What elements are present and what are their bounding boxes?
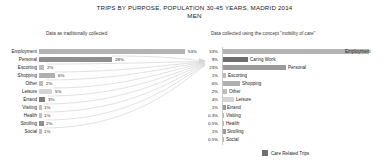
left-category-label: Visiting bbox=[0, 104, 37, 111]
left-value-label: 2% bbox=[47, 64, 53, 71]
left-category-label: Shopping bbox=[0, 72, 37, 79]
table-row: Other 2% bbox=[0, 80, 196, 87]
right-category-label: Health bbox=[226, 120, 239, 127]
legend-swatch-care-related-trips bbox=[262, 150, 268, 156]
left-bar-employment bbox=[39, 49, 185, 55]
right-value-label: 0.3% bbox=[196, 112, 218, 119]
right-bar-social bbox=[223, 137, 224, 143]
left-category-label: Other bbox=[0, 80, 37, 87]
left-bar-social bbox=[39, 129, 42, 135]
right-value-label: 53% bbox=[196, 48, 218, 55]
right-bar-other bbox=[223, 89, 227, 95]
table-row: Shopping 6% bbox=[0, 72, 196, 79]
right-category-label: Strolling bbox=[227, 128, 244, 135]
table-row: Social 1% bbox=[0, 128, 196, 135]
left-bar-personal bbox=[39, 57, 112, 63]
left-category-label: Social bbox=[0, 128, 37, 135]
left-bar-leisure bbox=[39, 89, 52, 95]
table-row: 0.5% Social bbox=[196, 136, 389, 143]
table-row: Visiting 1% bbox=[0, 104, 196, 111]
left-panel-heading: Data as traditionally collected bbox=[46, 31, 107, 36]
table-row: 2% Other bbox=[196, 88, 389, 95]
left-bar-visiting bbox=[39, 105, 42, 111]
table-row: 4% Leisure bbox=[196, 96, 389, 103]
table-row: 6% Shopping bbox=[196, 80, 389, 87]
right-value-label: 2% bbox=[196, 88, 218, 95]
right-bar-visiting bbox=[223, 113, 224, 119]
table-row: 1% Errand bbox=[196, 104, 389, 111]
right-bar-caring-work bbox=[223, 57, 248, 63]
right-value-label: 1% bbox=[196, 72, 218, 79]
table-row: 9% Caring Work bbox=[196, 56, 389, 63]
table-row: 1% Strolling bbox=[196, 128, 389, 135]
chart-root: TRIPS BY PURPOSE, POPULATION 30-45 YEARS… bbox=[0, 0, 389, 168]
left-value-label: 3% bbox=[48, 96, 54, 103]
left-value-label: 1% bbox=[44, 128, 50, 135]
left-category-label: Leisure bbox=[0, 88, 37, 95]
right-bar-leisure bbox=[223, 97, 234, 103]
right-bar-shopping bbox=[223, 81, 240, 87]
left-bar-escorting bbox=[39, 65, 44, 71]
right-category-label: Other bbox=[229, 88, 241, 95]
right-value-label: 0.5% bbox=[196, 136, 218, 143]
left-category-label: Employment bbox=[0, 48, 37, 55]
right-value-label: 1% bbox=[196, 104, 218, 111]
table-row: 23% Personal bbox=[196, 64, 389, 71]
right-bar-escorting bbox=[223, 73, 226, 79]
right-value-label: 4% bbox=[196, 96, 218, 103]
right-category-label: Leisure bbox=[236, 96, 251, 103]
left-value-label: 2% bbox=[46, 120, 52, 127]
table-row: 0.3% Visiting bbox=[196, 112, 389, 119]
table-row: Leisure 5% bbox=[0, 88, 196, 95]
right-category-label: Visiting bbox=[226, 112, 241, 119]
right-bar-health bbox=[223, 121, 224, 127]
table-row: 1% Escorting bbox=[196, 72, 389, 79]
right-category-label: Shopping bbox=[242, 80, 261, 87]
table-row: Personal 28% bbox=[0, 56, 196, 63]
right-value-label: 6% bbox=[196, 80, 218, 87]
left-value-label: 1% bbox=[44, 104, 50, 111]
left-value-label: 5% bbox=[55, 88, 61, 95]
left-category-label: Errand bbox=[0, 96, 37, 103]
page-title: TRIPS BY PURPOSE, POPULATION 30-45 YEARS… bbox=[0, 4, 389, 12]
left-bar-errand bbox=[39, 97, 45, 103]
left-bar-health bbox=[39, 113, 42, 119]
right-edge-label-employment: Employment bbox=[345, 48, 371, 55]
left-value-label: 28% bbox=[115, 56, 124, 63]
left-category-label: Escorting bbox=[0, 64, 37, 71]
right-panel-heading: Data collected using the concept "mobili… bbox=[211, 31, 315, 36]
table-row: Escorting 2% bbox=[0, 64, 196, 71]
right-bar-personal bbox=[223, 65, 286, 71]
table-row: 0.5% Health bbox=[196, 120, 389, 127]
right-value-label: 9% bbox=[196, 56, 218, 63]
left-category-label: Strolling bbox=[0, 120, 37, 127]
right-bar-strolling bbox=[223, 129, 226, 135]
legend-label-care-related-trips: Care Related Trips bbox=[271, 151, 309, 156]
right-category-label: Errand bbox=[227, 104, 241, 111]
left-value-label: 2% bbox=[46, 80, 52, 87]
page-subtitle: MEN bbox=[0, 12, 389, 20]
left-bar-strolling bbox=[39, 121, 44, 127]
right-category-label: Social bbox=[226, 136, 239, 143]
table-row: Health 1% bbox=[0, 112, 196, 119]
legend: Care Related Trips bbox=[262, 150, 309, 156]
right-bar-errand bbox=[223, 105, 226, 111]
left-category-label: Health bbox=[0, 112, 37, 119]
right-category-label: Caring Work bbox=[250, 56, 275, 63]
right-value-label: 1% bbox=[196, 128, 218, 135]
left-value-label: 6% bbox=[58, 72, 64, 79]
right-value-label: 0.5% bbox=[196, 120, 218, 127]
left-bar-shopping bbox=[39, 73, 55, 79]
table-row: Strolling 2% bbox=[0, 120, 196, 127]
table-row: Errand 3% bbox=[0, 96, 196, 103]
right-category-label: Personal bbox=[288, 64, 306, 71]
left-bar-other bbox=[39, 81, 43, 87]
left-value-label: 1% bbox=[44, 112, 50, 119]
left-category-label: Personal bbox=[0, 56, 37, 63]
right-value-label: 23% bbox=[196, 64, 218, 71]
table-row: Employment 53% bbox=[0, 48, 196, 55]
chart-title-block: TRIPS BY PURPOSE, POPULATION 30-45 YEARS… bbox=[0, 4, 389, 20]
right-category-label: Escorting bbox=[228, 72, 247, 79]
